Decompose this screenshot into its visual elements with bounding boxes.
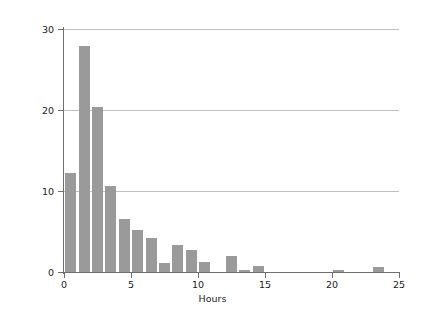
histogram-bar [199,262,210,272]
histogram-bar [92,107,103,272]
histogram-bar [239,270,250,272]
y-tick-label: 10 [14,186,54,197]
x-tick-mark [332,273,333,278]
histogram-bar [119,219,130,272]
x-axis-title: Hours [0,293,425,304]
histogram-bar [373,267,384,272]
histogram-bar [226,256,237,272]
histogram-bar [146,238,157,272]
y-tick-label: 0 [14,267,54,278]
x-tick-mark [265,273,266,278]
x-tick-label: 25 [393,279,405,290]
histogram-bar [105,186,116,272]
x-tick-mark [64,273,65,278]
y-tick-mark [58,272,63,273]
x-tick-label: 5 [128,279,134,290]
x-tick-mark [198,273,199,278]
plot-area [64,29,399,272]
x-tick-label: 10 [192,279,204,290]
histogram-bar [79,46,90,272]
x-axis-line [63,272,400,273]
histogram-bar [65,173,76,272]
x-tick-mark [399,273,400,278]
y-tick-label: 20 [14,105,54,116]
histogram-bar [172,245,183,272]
x-tick-label: 20 [326,279,338,290]
histogram-bar [159,263,170,272]
histogram-bar [253,266,264,272]
x-tick-label: 15 [259,279,271,290]
y-tick-mark [58,191,63,192]
y-tick-mark [58,110,63,111]
y-tick-label: 30 [14,24,54,35]
histogram-bar [186,250,197,272]
x-tick-label: 0 [61,279,67,290]
histogram-bar [333,270,344,272]
y-tick-mark [58,29,63,30]
histogram-bar [132,230,143,272]
x-tick-mark [131,273,132,278]
histogram-chart: Percent Hours 0102030 0510152025 [0,0,425,318]
